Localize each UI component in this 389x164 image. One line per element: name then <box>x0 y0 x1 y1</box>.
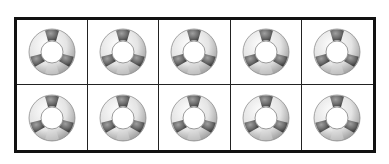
life-ring-icon <box>312 93 362 143</box>
life-ring-icon <box>241 93 291 143</box>
ten-frame-cell <box>231 85 302 150</box>
life-ring-icon <box>98 27 148 77</box>
life-ring-icon <box>169 93 219 143</box>
life-ring-icon <box>98 93 148 143</box>
ten-frame-cell <box>159 20 230 85</box>
ten-frame-cell <box>159 85 230 150</box>
ten-frame-cell <box>302 85 373 150</box>
life-ring-icon <box>169 27 219 77</box>
ten-frame-cell <box>302 20 373 85</box>
ten-frame-cell <box>17 85 88 150</box>
ten-frame-cell <box>231 20 302 85</box>
life-ring-icon <box>312 27 362 77</box>
life-ring-icon <box>241 27 291 77</box>
life-ring-icon <box>27 27 77 77</box>
ten-frame <box>14 17 376 153</box>
ten-frame-cell <box>88 20 159 85</box>
ten-frame-cell <box>17 20 88 85</box>
life-ring-icon <box>27 93 77 143</box>
ten-frame-cell <box>88 85 159 150</box>
